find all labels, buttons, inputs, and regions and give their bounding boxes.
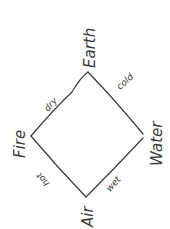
edge-earth-water bbox=[88, 72, 143, 134]
node-label-air: Air bbox=[79, 206, 97, 228]
elements-diagram: Earth Water Air Fire dry cold hot wet bbox=[0, 0, 170, 229]
edge-label-wet: wet bbox=[104, 174, 123, 193]
edge-label-cold: cold bbox=[115, 71, 136, 91]
edge-label-hot: hot bbox=[34, 170, 52, 188]
node-label-water: Water bbox=[148, 121, 166, 166]
node-label-fire: Fire bbox=[11, 130, 29, 158]
edge-label-dry: dry bbox=[42, 95, 60, 113]
edge-fire-earth bbox=[31, 72, 88, 136]
node-label-earth: Earth bbox=[81, 28, 99, 68]
edge-air-fire bbox=[31, 136, 86, 197]
